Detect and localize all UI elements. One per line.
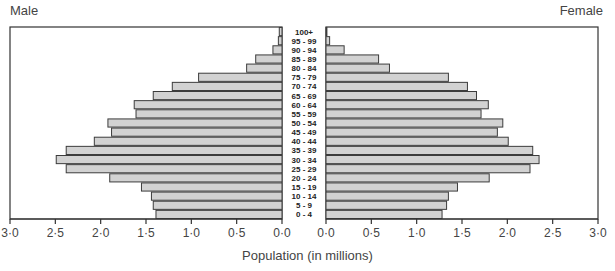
- x-tick-label: 1·5: [453, 226, 471, 240]
- male-bar: [134, 101, 282, 109]
- age-group-label: 95 - 99: [292, 37, 317, 46]
- male-bar: [172, 82, 282, 90]
- x-tick-label: 1·0: [408, 226, 426, 240]
- x-tick-label: 2·5: [544, 226, 562, 240]
- male-bar: [273, 46, 282, 54]
- x-tick-label: 0·5: [228, 226, 246, 240]
- age-group-label: 65 - 69: [292, 92, 317, 101]
- male-bar: [278, 37, 282, 45]
- x-tick-label: 2·5: [47, 226, 65, 240]
- male-bar: [66, 165, 282, 173]
- female-bar: [326, 201, 447, 209]
- male-x-axis: 3·02·52·01·51·00·50·0: [1, 219, 291, 240]
- age-group-label: 55 - 59: [292, 110, 317, 119]
- age-group-label: 50 - 54: [292, 119, 317, 128]
- male-bar: [112, 128, 282, 136]
- male-bar: [141, 183, 282, 191]
- age-group-label: 90 - 94: [292, 46, 317, 55]
- age-group-label: 40 - 44: [292, 137, 317, 146]
- female-bar: [326, 183, 457, 191]
- female-bar: [326, 146, 533, 154]
- age-group-label: 0 - 4: [296, 210, 313, 219]
- x-tick-label: 2·0: [92, 226, 110, 240]
- x-tick-label: 0·0: [317, 226, 335, 240]
- age-group-label: 10 - 14: [292, 192, 317, 201]
- x-tick-label: 0·5: [363, 226, 381, 240]
- x-tick-label: 3·0: [589, 226, 607, 240]
- male-bar: [56, 156, 282, 164]
- x-tick-label: 2·0: [499, 226, 517, 240]
- age-group-labels: 100+95 - 9990 - 9485 - 8980 - 8475 - 797…: [292, 28, 317, 220]
- male-bar: [279, 28, 282, 36]
- female-bar: [326, 92, 477, 100]
- female-x-axis: 0·00·51·01·52·02·53·0: [317, 219, 607, 240]
- male-bar: [136, 110, 282, 118]
- female-bar: [326, 37, 330, 45]
- male-panel: [10, 27, 282, 219]
- female-bar: [326, 110, 481, 118]
- population-pyramid-chart: 100+95 - 9990 - 9485 - 8980 - 8475 - 797…: [0, 0, 615, 271]
- age-group-label: 45 - 49: [292, 128, 317, 137]
- female-bar: [326, 82, 467, 90]
- female-bar: [326, 156, 539, 164]
- female-bar: [326, 128, 497, 136]
- age-group-label: 5 - 9: [296, 201, 313, 210]
- male-bar: [199, 73, 282, 81]
- x-tick-label: 3·0: [1, 226, 19, 240]
- male-bar: [256, 55, 282, 63]
- age-group-label: 80 - 84: [292, 64, 317, 73]
- age-group-label: 30 - 34: [292, 156, 317, 165]
- age-group-label: 15 - 19: [292, 183, 317, 192]
- female-bar: [326, 73, 448, 81]
- x-tick-label: 1·0: [183, 226, 201, 240]
- x-axis-label: Population (in millions): [0, 248, 615, 263]
- age-group-label: 100+: [295, 28, 313, 37]
- age-group-label: 75 - 79: [292, 73, 317, 82]
- female-bar: [326, 101, 488, 109]
- female-bar: [326, 192, 448, 200]
- male-bar: [66, 146, 282, 154]
- age-group-label: 60 - 64: [292, 101, 317, 110]
- male-bar: [156, 210, 282, 218]
- male-bar: [153, 92, 282, 100]
- female-bar: [326, 210, 442, 218]
- age-group-label: 85 - 89: [292, 55, 317, 64]
- x-tick-label: 0·0: [273, 226, 291, 240]
- male-bar: [110, 174, 282, 182]
- female-bar: [326, 46, 344, 54]
- female-bar: [326, 137, 508, 145]
- male-bar: [108, 119, 282, 127]
- female-bar: [326, 28, 327, 36]
- female-panel: [326, 27, 598, 219]
- age-group-label: 70 - 74: [292, 82, 317, 91]
- age-group-label: 20 - 24: [292, 174, 317, 183]
- male-bar: [151, 192, 282, 200]
- male-bar: [247, 64, 282, 72]
- x-tick-label: 1·5: [137, 226, 155, 240]
- female-bar: [326, 174, 489, 182]
- female-bar: [326, 55, 379, 63]
- female-bar: [326, 165, 530, 173]
- age-group-label: 25 - 29: [292, 165, 317, 174]
- female-bar: [326, 119, 503, 127]
- age-group-label: 35 - 39: [292, 146, 317, 155]
- female-bar: [326, 64, 389, 72]
- male-bar: [94, 137, 282, 145]
- male-bar: [153, 201, 282, 209]
